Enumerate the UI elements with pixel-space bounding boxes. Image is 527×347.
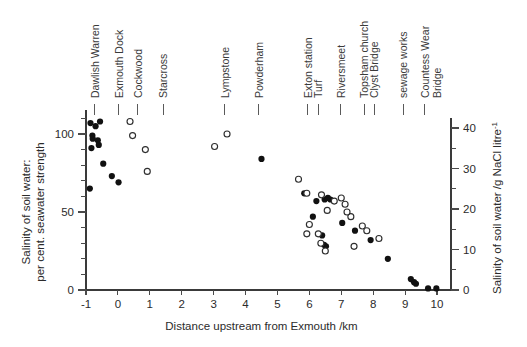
data-point-open: [324, 207, 330, 213]
location-label-lympstone: Lympstone: [219, 47, 231, 98]
y-axis-right-title: Salinity of soil water /g NaCl litre-1: [490, 121, 503, 294]
salinity-scatter-figure: -1012345678910Distance upstream from Exm…: [0, 0, 527, 347]
x-tick-label: 4: [242, 298, 249, 310]
location-label-text: Dawlish Warren: [89, 24, 101, 98]
x-tick-label: 9: [402, 298, 408, 310]
data-point-filled: [97, 118, 103, 124]
data-point-open: [130, 133, 136, 139]
y-tick-label-right: 0: [463, 284, 469, 296]
location-label-text: Cockwood: [132, 49, 144, 98]
x-tick-label: 7: [338, 298, 344, 310]
data-point-open: [322, 248, 328, 254]
data-point-open: [318, 192, 324, 198]
data-point-open: [296, 176, 302, 182]
data-point-filled: [313, 198, 319, 204]
data-point-open: [306, 221, 312, 227]
location-label-text: Clyst Bridge: [368, 41, 380, 98]
data-point-open: [338, 195, 344, 201]
location-label-text: sewage works: [397, 31, 409, 98]
data-point-open: [304, 231, 310, 237]
y-tick-label-left: 50: [61, 206, 74, 218]
chart-canvas: -1012345678910Distance upstream from Exm…: [0, 0, 527, 347]
data-point-filled: [352, 228, 358, 234]
location-label-starcross: Starcross: [157, 54, 169, 98]
data-point-filled: [92, 123, 98, 129]
data-point-open: [364, 228, 370, 234]
data-point-open: [331, 198, 337, 204]
y-tick-label-right: 40: [463, 122, 476, 134]
data-point-filled: [368, 237, 374, 243]
y-tick-label-right: 30: [463, 163, 476, 175]
y-tick-label-right: 20: [463, 203, 476, 215]
data-point-filled: [413, 281, 419, 287]
location-label-sewage-works: sewage works: [397, 31, 409, 98]
x-tick-label: 8: [370, 298, 376, 310]
location-label-exmouth-dock: Exmouth Dock: [113, 29, 125, 98]
location-label-cockwood: Cockwood: [132, 49, 144, 98]
x-tick-label: 3: [210, 298, 216, 310]
x-tick-label: 2: [179, 298, 185, 310]
y-axis-left-title: Salinity of soil water:per cent. seawate…: [20, 142, 46, 281]
data-point-open: [315, 231, 321, 237]
x-tick-label: 1: [147, 298, 153, 310]
location-label-text: Starcross: [157, 54, 169, 98]
location-label-countess-wear-bridge: Bridge: [431, 67, 443, 98]
x-tick-label: 5: [274, 298, 280, 310]
data-point-open: [142, 147, 148, 153]
location-label-riversmeet: Riversmeet: [335, 45, 347, 98]
data-point-open: [342, 201, 348, 207]
data-point-filled: [425, 285, 431, 291]
location-label-text: Turf: [312, 80, 324, 98]
location-label-clyst-bridge: Clyst Bridge: [368, 41, 380, 98]
location-label-text: Powderham: [253, 42, 265, 98]
data-point-open: [318, 240, 324, 246]
data-point-open: [344, 209, 350, 215]
data-point-filled: [96, 142, 102, 148]
data-point-open: [376, 236, 382, 242]
data-point-filled: [385, 256, 391, 262]
y-tick-label-left: 0: [68, 284, 74, 296]
data-point-filled: [310, 214, 316, 220]
data-point-open: [304, 190, 310, 196]
location-label-dawlish-warren: Dawlish Warren: [89, 24, 101, 98]
location-label-text: Bridge: [431, 67, 443, 98]
location-label-countess-wear-bridge: Countess Wear: [419, 25, 431, 98]
location-label-turf: Turf: [312, 80, 324, 98]
data-point-filled: [258, 156, 264, 162]
location-label-text: Riversmeet: [335, 45, 347, 98]
data-point-filled: [433, 285, 439, 291]
y-axis-left-title-line1: Salinity of soil water:: [20, 160, 32, 265]
x-tick-label: 10: [431, 298, 444, 310]
data-point-open: [144, 168, 150, 174]
y-axis-left-title-line2: per cent. seawater strength: [34, 142, 46, 281]
location-label-text: Lympstone: [219, 47, 231, 98]
y-tick-label-right: 10: [463, 244, 476, 256]
location-label-text: Exmouth Dock: [113, 29, 125, 98]
x-axis-title: Distance upstream from Exmouth /km: [165, 320, 357, 332]
data-point-filled: [87, 186, 93, 192]
x-tick-label: -1: [81, 298, 91, 310]
data-point-filled: [115, 179, 121, 185]
location-label-text: Countess Wear: [419, 25, 431, 98]
data-point-filled: [339, 220, 345, 226]
data-point-open: [212, 143, 218, 149]
data-point-open: [224, 131, 230, 137]
data-point-filled: [109, 173, 115, 179]
location-label-powderham: Powderham: [253, 42, 265, 98]
data-point-open: [127, 119, 133, 125]
y-tick-label-left: 100: [55, 128, 74, 140]
x-tick-label: 6: [306, 298, 312, 310]
x-tick-label: 0: [115, 298, 121, 310]
data-point-open: [351, 243, 357, 249]
data-point-filled: [88, 145, 94, 151]
data-point-filled: [100, 161, 106, 167]
y-axis-right-title-text: Salinity of soil water /g NaCl litre-1: [490, 121, 503, 294]
